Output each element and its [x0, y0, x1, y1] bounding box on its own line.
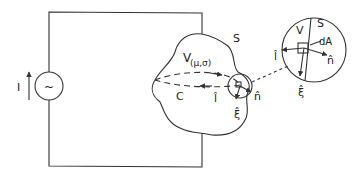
normal-label: n̂: [254, 90, 261, 103]
inset-xi-label: ξ̂: [298, 85, 304, 99]
surface-label: S: [233, 32, 240, 45]
ac-source-icon: ~: [35, 72, 63, 100]
inset-normal-label: n̂: [327, 54, 334, 67]
xi-label: ξ̂: [234, 107, 240, 121]
contour-c: [155, 72, 240, 87]
area-element-label: dA: [319, 36, 332, 47]
inset-volume-label: V: [296, 24, 304, 37]
inset-tangent-label: l̂: [273, 50, 277, 63]
inset-surface-label: S: [317, 17, 324, 30]
leader-line: [252, 66, 288, 82]
tangent-label: l̂: [213, 92, 217, 105]
source-symbol: ~: [44, 80, 54, 94]
current-label: I: [17, 81, 20, 94]
contour-label: C: [176, 90, 184, 103]
circuit-diagram: ~ I V (μ,σ) S C l̂ n̂ ξ̂ V S dA l̂ n̂ ξ̂: [0, 0, 361, 178]
volume-params: (μ,σ): [190, 58, 211, 68]
inset-magnified-view: [282, 18, 346, 82]
